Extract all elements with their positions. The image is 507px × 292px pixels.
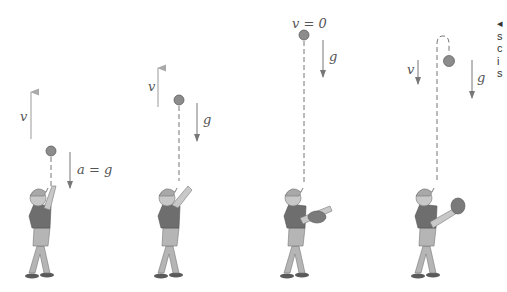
- panel-1-velocity-label: v: [20, 110, 27, 123]
- caption-bullet-icon: ◂: [497, 17, 503, 30]
- ball-icon: [299, 30, 309, 40]
- panel-1-acceleration-label: a = g: [77, 163, 112, 176]
- panel-3-acceleration-label: g: [329, 50, 337, 63]
- figure-vertical-throw: v a = g v g v = 0 g v g ◂ s c i s: [0, 0, 507, 292]
- panel-2-acceleration-label: g: [203, 113, 211, 126]
- panel-1: [25, 92, 70, 279]
- caption-line: i: [497, 55, 503, 68]
- ball-icon: [174, 95, 184, 105]
- glove-icon: [451, 198, 465, 214]
- panel-2-velocity-label: v: [148, 80, 155, 93]
- panel-4-velocity-label: v: [407, 63, 414, 76]
- panel-4: [411, 36, 472, 279]
- panel-3: [280, 30, 332, 279]
- caption-line: s: [497, 30, 503, 43]
- figure-drawing: [0, 0, 507, 292]
- panel-3-velocity-label: v = 0: [292, 17, 327, 30]
- panel-4-acceleration-label: g: [477, 71, 485, 84]
- glove-icon: [308, 211, 326, 223]
- caption-line: s: [497, 67, 503, 80]
- caption-line: c: [497, 42, 503, 55]
- cropped-caption: ◂ s c i s: [497, 17, 503, 80]
- panel-2: [154, 68, 197, 279]
- ball-icon: [444, 56, 455, 67]
- ball-icon: [46, 146, 56, 156]
